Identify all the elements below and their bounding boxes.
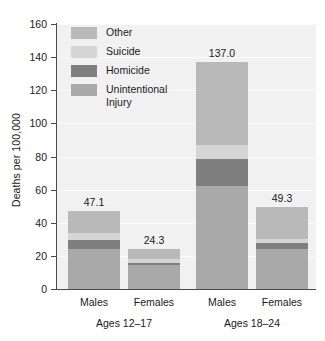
bar-segment-suicide [196, 145, 248, 160]
y-tick [51, 256, 56, 257]
legend-item: Suicide [71, 45, 167, 58]
gridline [57, 123, 316, 124]
bar-total-label: 49.3 [247, 192, 317, 204]
y-tick-label: 0 [7, 284, 47, 295]
gridline [57, 157, 316, 158]
y-tick-label: 120 [7, 85, 47, 96]
bar-segment-other [128, 249, 180, 259]
y-tick [51, 24, 56, 25]
bar-segment-other [68, 211, 120, 233]
legend-item: Homicide [71, 64, 167, 77]
legend-label: Other [106, 26, 132, 39]
group-label-2: Ages 18–24 [187, 317, 317, 329]
legend-item: Other [71, 26, 167, 39]
y-axis-line [56, 23, 57, 290]
legend-label: Unintentional Injury [106, 83, 167, 108]
bar-segment-homicide [196, 159, 248, 186]
y-tick [51, 157, 56, 158]
y-tick [51, 123, 56, 124]
y-tick-label: 140 [7, 52, 47, 63]
y-tick-label: 160 [7, 19, 47, 30]
bar-Ages-18–24-females [256, 207, 308, 289]
y-tick-label: 20 [7, 251, 47, 262]
y-tick-label: 80 [7, 152, 47, 163]
y-tick [51, 190, 56, 191]
bar-segment-other [256, 207, 308, 239]
legend-label: Suicide [106, 45, 140, 58]
bar-total-label: 137.0 [187, 47, 257, 59]
bar-segment-unintentional-injury [128, 265, 180, 289]
y-tick-label: 60 [7, 185, 47, 196]
y-tick [51, 289, 56, 290]
bar-total-label: 47.1 [59, 196, 129, 208]
legend-item: Unintentional Injury [71, 83, 167, 108]
bar-segment-other [196, 62, 248, 144]
category-label-females-3: Females [244, 296, 320, 308]
bar-segment-unintentional-injury [68, 249, 120, 289]
legend-label: Homicide [106, 64, 150, 77]
bar-segment-homicide [68, 240, 120, 249]
y-tick-label: 100 [7, 118, 47, 129]
chart-figure: Deaths per 100,000 020406080100120140160… [0, 0, 325, 341]
legend-swatch [71, 46, 97, 58]
bar-total-label: 24.3 [119, 234, 189, 246]
legend-swatch [71, 65, 97, 77]
chart-legend: OtherSuicideHomicideUnintentional Injury [71, 26, 167, 114]
bar-segment-unintentional-injury [256, 249, 308, 289]
gridline [57, 24, 316, 25]
y-tick [51, 90, 56, 91]
bar-segment-suicide [68, 233, 120, 240]
y-tick-label: 40 [7, 218, 47, 229]
legend-swatch [71, 27, 97, 39]
group-label-1: Ages 12–17 [59, 317, 189, 329]
y-tick [51, 57, 56, 58]
bar-Ages-12–17-females [128, 249, 180, 289]
legend-swatch [71, 84, 97, 96]
gridline [57, 190, 316, 191]
bar-Ages-12–17-males [68, 211, 120, 289]
category-label-females-1: Females [116, 296, 192, 308]
bar-Ages-18–24-males [196, 62, 248, 289]
y-tick [51, 223, 56, 224]
x-axis-line [56, 289, 316, 290]
bar-segment-unintentional-injury [196, 186, 248, 289]
